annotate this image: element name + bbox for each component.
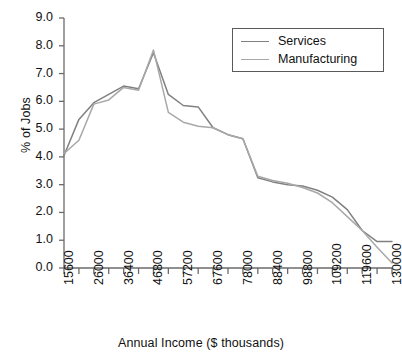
- x-tick-label: 26000: [92, 250, 106, 285]
- x-tick-label: 98800: [301, 250, 315, 285]
- legend-swatch-services: [241, 41, 269, 42]
- x-tick-label: 15600: [62, 250, 76, 285]
- x-tick-label: 130000: [390, 243, 402, 285]
- x-tick-label: 109200: [330, 243, 344, 285]
- legend-entry-manufacturing: Manufacturing: [241, 50, 357, 68]
- x-tick-label: 46800: [151, 250, 165, 285]
- legend-entry-services: Services: [241, 32, 326, 50]
- x-tick-label: 57200: [181, 250, 195, 285]
- y-tick-label: 2.0: [13, 204, 53, 218]
- y-tick-label: 6.0: [13, 93, 53, 107]
- x-tick-label: 78000: [241, 250, 255, 285]
- y-tick-label: 7.0: [13, 66, 53, 80]
- y-tick-label: 1.0: [13, 232, 53, 246]
- x-tick-label: 88400: [271, 250, 285, 285]
- y-tick-label: 3.0: [13, 177, 53, 191]
- y-tick-label: 0.0: [13, 260, 53, 274]
- line-chart: % of Jobs Annual Income ($ thousands) 0.…: [0, 0, 402, 364]
- y-tick-label: 5.0: [13, 121, 53, 135]
- x-tick-label: 67600: [211, 250, 225, 285]
- series-lines: [64, 50, 392, 263]
- legend-swatch-manufacturing: [241, 59, 269, 60]
- legend-label-services: Services: [278, 34, 326, 48]
- x-tick-label: 119600: [360, 244, 374, 285]
- chart-legend: Services Manufacturing: [232, 28, 384, 72]
- legend-label-manufacturing: Manufacturing: [278, 52, 357, 66]
- x-tick-label: 36400: [122, 250, 136, 285]
- series-line-manufacturing: [64, 50, 392, 263]
- y-tick-label: 9.0: [13, 10, 53, 24]
- y-tick-label: 8.0: [13, 38, 53, 52]
- y-tick-label: 4.0: [13, 149, 53, 163]
